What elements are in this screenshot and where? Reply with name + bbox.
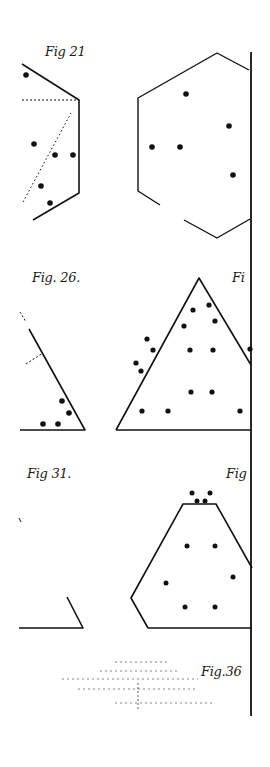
lattice-dot	[23, 72, 29, 78]
lattice-dot	[190, 307, 195, 312]
fig-partial-label-top: Fi	[232, 270, 245, 285]
fig-36-label: Fig.36	[201, 664, 241, 679]
lattice-dot	[237, 408, 242, 413]
lattice-dot	[133, 360, 138, 365]
fig-26-partial-triangle	[20, 312, 85, 430]
lattice-dot	[165, 408, 170, 413]
lattice-dot	[210, 347, 215, 352]
fig-26-right-triangle	[116, 278, 253, 430]
outline-edge	[19, 518, 21, 522]
lattice-dot	[55, 421, 61, 427]
lattice-dot	[144, 336, 149, 341]
dashed-guide-line	[23, 113, 71, 202]
lattice-dot	[203, 499, 208, 504]
fig-21-partial-hexagon	[22, 64, 79, 220]
outline-edge	[184, 219, 250, 238]
lattice-dot	[187, 347, 192, 352]
fig-31-partial-corner	[19, 518, 83, 628]
lattice-dot	[226, 123, 232, 129]
lattice-dot	[181, 323, 186, 328]
dashed-guide-line	[26, 353, 43, 364]
lattice-dot	[206, 302, 211, 307]
outline-edge	[20, 329, 85, 430]
lattice-dot	[183, 91, 189, 97]
lattice-dot	[38, 183, 44, 189]
outline-edge	[22, 64, 79, 220]
figures-layer	[19, 53, 253, 628]
lattice-dot	[139, 408, 144, 413]
fig-26-label: Fig. 26.	[32, 270, 80, 285]
lattice-dot	[185, 544, 190, 549]
outline-edge	[19, 597, 83, 628]
lattice-dot	[52, 152, 58, 158]
lattice-dot	[190, 491, 195, 496]
fig-31-label: Fig 31.	[27, 466, 71, 481]
lattice-dot	[70, 152, 76, 158]
outline-edge	[138, 53, 249, 205]
lattice-dot	[230, 172, 236, 178]
outline-edge	[116, 278, 251, 430]
fig-36-lattice-pattern	[62, 662, 215, 710]
lattice-dot	[195, 499, 200, 504]
lattice-dot	[59, 398, 65, 404]
lattice-dot	[47, 200, 53, 206]
lattice-dot	[213, 544, 218, 549]
lattice-dot	[66, 410, 72, 416]
lattice-dot	[183, 605, 188, 610]
lattice-dot	[149, 144, 155, 150]
lattice-dot	[150, 347, 155, 352]
lattice-dot	[231, 575, 236, 580]
fig-21-label: Fig 21	[45, 44, 85, 59]
lattice-dot	[138, 368, 143, 373]
lattice-dot	[177, 144, 183, 150]
fig-partial-label-mid: Fig	[226, 466, 247, 481]
lattice-dot	[213, 605, 218, 610]
fig-21-right-hexagon	[138, 53, 250, 238]
lattice-dot	[40, 421, 46, 427]
dashed-guide-line	[20, 312, 26, 322]
figure-plate	[0, 0, 270, 767]
lattice-dot	[208, 491, 213, 496]
lattice-dot	[31, 141, 37, 147]
lattice-dot	[164, 581, 169, 586]
lattice-dot	[209, 389, 214, 394]
fig-31-right-trapezoid	[131, 491, 252, 629]
outline-edge	[131, 504, 252, 628]
lattice-dot	[188, 389, 193, 394]
lattice-dot	[212, 318, 217, 323]
